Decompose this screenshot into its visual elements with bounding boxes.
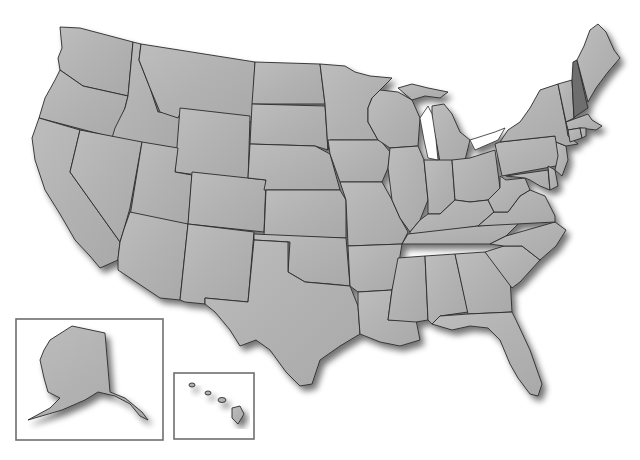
state-iowa[interactable] [328, 140, 390, 182]
state-connecticut[interactable] [568, 128, 582, 142]
us-map [0, 0, 640, 460]
island-maui[interactable] [218, 398, 226, 403]
alaska-inset [16, 319, 163, 440]
hawaii-inset [174, 373, 254, 439]
state-colorado[interactable] [188, 172, 266, 232]
island-kauai[interactable] [189, 383, 195, 387]
state-new-jersey[interactable] [555, 142, 568, 176]
state-arizona[interactable] [118, 212, 188, 300]
state-wyoming[interactable] [175, 108, 250, 182]
island-oahu[interactable] [205, 391, 211, 395]
state-south-dakota[interactable] [250, 104, 328, 150]
state-north-dakota[interactable] [252, 62, 325, 104]
hawaii-inset-frame [174, 373, 254, 439]
state-kansas[interactable] [264, 190, 346, 238]
state-new-mexico[interactable] [180, 224, 254, 304]
state-florida[interactable] [432, 312, 542, 396]
